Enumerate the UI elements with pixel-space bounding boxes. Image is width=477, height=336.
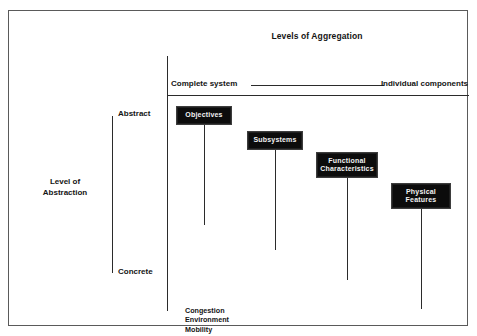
node-box-label: Subsystems <box>251 136 298 145</box>
abstraction-axis-line <box>112 116 113 273</box>
label-individual-components: Individual components <box>381 79 468 88</box>
label-concrete: Concrete <box>118 267 153 276</box>
node-connector-functional-characteristics <box>347 178 348 280</box>
aggregation-span-row: Complete system Individual components <box>169 79 469 93</box>
node-connector-objectives <box>204 125 205 225</box>
label-abstract: Abstract <box>118 109 150 118</box>
node-box-physical-features: Physical Features <box>391 183 451 209</box>
node-list-objectives: Congestion Environment Mobility Producti… <box>185 306 229 336</box>
node-connector-subsystems <box>275 150 276 250</box>
node-box-label: Objectives <box>183 111 224 120</box>
list-item: Mobility <box>185 325 229 334</box>
node-connector-physical-features <box>421 209 422 309</box>
node-box-label: Physical Features <box>404 188 439 205</box>
node-box-objectives: Objectives <box>176 106 232 125</box>
node-box-functional-characteristics: Functional Characteristics <box>316 152 378 178</box>
figure-frame: Levels of Aggregation Complete system In… <box>8 10 468 326</box>
list-item: Environment <box>185 315 229 324</box>
node-box-label: Functional Characteristics <box>318 157 376 174</box>
axis-title-level-of-abstraction: Level of Abstraction <box>21 176 109 198</box>
node-box-subsystems: Subsystems <box>247 131 303 150</box>
aggregation-title: Levels of Aggregation <box>167 31 467 41</box>
list-item: Congestion <box>185 306 229 315</box>
span-underline <box>167 95 469 96</box>
span-connector-line <box>251 85 384 86</box>
label-complete-system: Complete system <box>171 79 237 88</box>
